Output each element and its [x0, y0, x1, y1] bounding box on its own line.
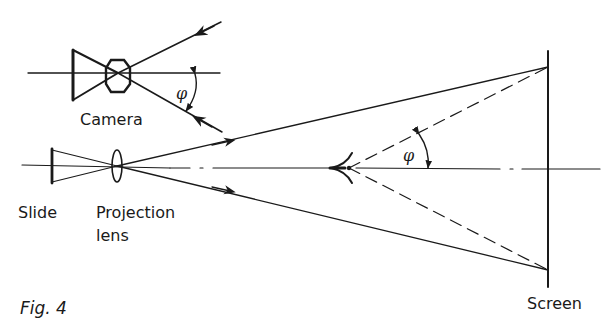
camera-angle-label: φ [176, 86, 187, 102]
projector-icon [22, 149, 170, 183]
main-optical-axis [170, 168, 600, 169]
figure-caption: Fig. 4 [20, 300, 67, 317]
camera-angle-arc [186, 74, 196, 111]
screen-label: Screen [527, 296, 582, 312]
projector-axis [22, 165, 170, 168]
camera-lens [106, 60, 130, 92]
eye-angle-arc [419, 134, 428, 168]
projection-lens-label-line2: lens [96, 228, 129, 244]
projection-ray-upper [117, 67, 548, 166]
eye-angle-label: φ [403, 148, 414, 164]
sight-line-upper [349, 67, 548, 168]
projection-ray-lower [117, 166, 548, 270]
sight-line-lower [349, 168, 548, 270]
camera-label: Camera [80, 112, 143, 128]
slide-label: Slide [18, 205, 57, 221]
projection-lens-label-line1: Projection [96, 205, 175, 221]
